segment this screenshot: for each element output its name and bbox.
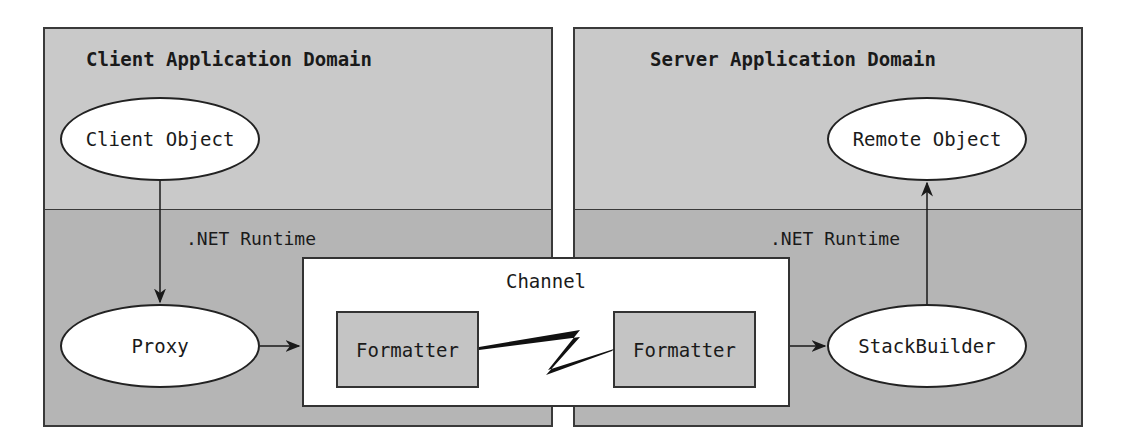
lightning-bolt-icon [479,330,614,375]
connectors [0,0,1121,447]
